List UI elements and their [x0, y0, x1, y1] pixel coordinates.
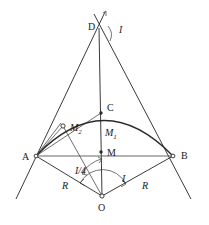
angle-arc-i-central: [80, 170, 126, 184]
geometry-diagram-canvas: D C A B M O M1 M2 I I I/4 R R: [0, 0, 209, 225]
chord-a-to-m2-upper: [36, 123, 61, 156]
label-point-d: D: [88, 21, 95, 32]
sub-chords-from-a: [36, 113, 101, 156]
chord-a-to-c: [36, 113, 101, 156]
label-angle-i-top: I: [118, 24, 123, 35]
point-marker-a: [34, 154, 38, 158]
point-marker-m: [99, 150, 102, 153]
label-point-m2: M2: [69, 122, 82, 136]
point-marker-m2: [61, 124, 65, 128]
tangent-lines: [16, 12, 191, 199]
label-point-m: M: [107, 147, 116, 158]
label-angle-i-quarter: I/4: [74, 165, 86, 176]
radius-o-to-b: [102, 156, 173, 196]
label-radius-left: R: [61, 180, 68, 191]
point-markers: [34, 111, 175, 198]
label-radius-right: R: [141, 180, 148, 191]
label-point-m1: M1: [104, 127, 117, 141]
angle-mark-d: [108, 26, 111, 41]
angle-marks-o: [80, 157, 126, 187]
label-point-c: C: [107, 102, 114, 113]
label-point-o: O: [98, 202, 105, 213]
point-marker-o: [100, 194, 104, 198]
radius-value-labels: R R: [61, 180, 148, 191]
label-point-m1-sub: 1: [113, 133, 117, 141]
label-point-m2-sub: 2: [78, 128, 82, 136]
angle-arc-i-top: [108, 26, 111, 41]
curve-geometry-svg: D C A B M O M1 M2 I I I/4 R R: [0, 0, 209, 225]
point-marker-b: [171, 154, 175, 158]
label-point-b: B: [181, 150, 188, 161]
vertex-labels: D C A B M O M1 M2: [22, 21, 188, 213]
point-marker-c: [99, 111, 102, 114]
label-point-a: A: [22, 151, 30, 162]
radius-o-to-a: [36, 156, 102, 196]
label-angle-i-bottom: I: [121, 173, 126, 184]
